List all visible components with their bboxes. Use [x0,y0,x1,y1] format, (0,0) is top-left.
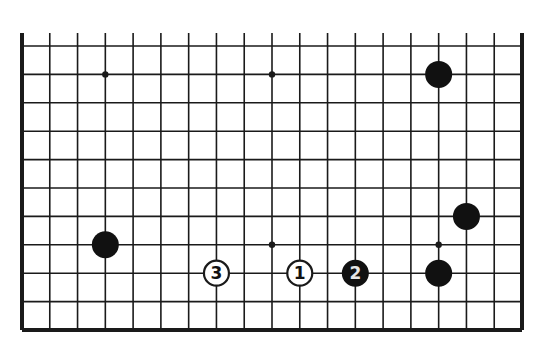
move-number-label: 2 [349,263,361,283]
star-point-icon [435,242,441,248]
move-number-label: 1 [294,263,306,283]
black-stone [92,231,119,258]
white-stone-1: 1 [287,261,312,286]
black-stone [453,203,480,230]
white-stone-3: 3 [204,261,229,286]
black-stone-2: 2 [342,260,369,287]
black-stone [425,260,452,287]
star-point-icon [102,71,108,77]
black-stone-icon [453,203,480,230]
star-point-icon [269,71,275,77]
move-number-label: 3 [211,263,223,283]
black-stone-icon [92,231,119,258]
star-point-icon [269,242,275,248]
black-stone-icon [425,260,452,287]
go-board-diagram: 123 [0,0,556,361]
black-stone-icon [425,61,452,88]
stones-layer: 123 [92,61,480,287]
black-stone [425,61,452,88]
